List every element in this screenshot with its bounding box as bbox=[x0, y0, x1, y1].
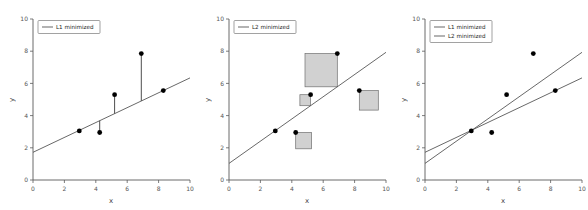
y-tick-label-8: 8 bbox=[24, 47, 28, 54]
panel-l1-and-l2: 0 2 4 6 8 10 0 2 4 6 8 10 x y bbox=[392, 0, 588, 210]
x-tick-label-2: 2 bbox=[62, 185, 66, 192]
data-point bbox=[504, 92, 509, 97]
x-axis-label: x bbox=[109, 197, 113, 205]
data-point bbox=[139, 51, 144, 56]
legend-label-l1: L1 minimized bbox=[56, 24, 94, 30]
data-point bbox=[77, 129, 82, 134]
y-tick-label-8: 8 bbox=[220, 47, 224, 54]
y-tick-label-4: 4 bbox=[24, 112, 28, 119]
x-tick-label-2: 2 bbox=[258, 185, 262, 192]
x-tick-label-4: 4 bbox=[486, 185, 490, 192]
y-tick-label-10: 10 bbox=[216, 15, 224, 22]
y-tick-label-2: 2 bbox=[220, 144, 224, 151]
data-points bbox=[469, 51, 558, 135]
legend[interactable]: L2 minimized bbox=[234, 21, 296, 34]
x-tick-label-8: 8 bbox=[157, 185, 161, 192]
x-tick-label-4: 4 bbox=[94, 185, 98, 192]
l2-fit-line bbox=[425, 52, 582, 163]
figure-three-panel-regression: 0 2 4 6 8 10 0 2 4 6 8 10 x y bbox=[0, 0, 588, 210]
x-tick-label-6: 6 bbox=[125, 185, 129, 192]
data-point bbox=[112, 92, 117, 97]
y-tick-label-8: 8 bbox=[416, 47, 420, 54]
data-point bbox=[531, 51, 536, 56]
x-tick-label-10: 10 bbox=[382, 185, 390, 192]
data-point bbox=[553, 88, 558, 93]
x-tick-label-8: 8 bbox=[549, 185, 553, 192]
y-tick-label-0: 0 bbox=[24, 176, 28, 183]
data-point bbox=[489, 130, 494, 135]
legend-label-l1: L1 minimized bbox=[448, 24, 486, 30]
x-axis-label: x bbox=[501, 197, 505, 205]
data-point bbox=[293, 130, 298, 135]
panel-l1-canvas: 0 2 4 6 8 10 0 2 4 6 8 10 x y bbox=[0, 0, 196, 210]
y-tick-label-4: 4 bbox=[416, 112, 420, 119]
panel-both-canvas: 0 2 4 6 8 10 0 2 4 6 8 10 x y bbox=[392, 0, 588, 210]
panel-l2-minimized: 0 2 4 6 8 10 0 2 4 6 8 10 x y bbox=[196, 0, 392, 210]
residual-squares bbox=[296, 54, 379, 149]
residual-segments bbox=[79, 54, 163, 133]
y-tick-label-2: 2 bbox=[24, 144, 28, 151]
x-tick-label-4: 4 bbox=[290, 185, 294, 192]
data-point bbox=[273, 129, 278, 134]
x-tick-label-0: 0 bbox=[423, 185, 427, 192]
data-point bbox=[97, 130, 102, 135]
legend-label-l2: L2 minimized bbox=[448, 33, 486, 39]
y-tick-label-4: 4 bbox=[220, 112, 224, 119]
x-tick-label-10: 10 bbox=[186, 185, 194, 192]
panel-l1-minimized: 0 2 4 6 8 10 0 2 4 6 8 10 x y bbox=[0, 0, 196, 210]
panel-l1-axes: 0 2 4 6 8 10 0 2 4 6 8 10 x y bbox=[8, 15, 194, 205]
y-tick-label-10: 10 bbox=[20, 15, 28, 22]
y-tick-label-0: 0 bbox=[416, 176, 420, 183]
y-axis-label: y bbox=[204, 98, 212, 102]
l1-fit-line bbox=[33, 78, 190, 152]
legend[interactable]: L1 minimized bbox=[38, 21, 100, 34]
y-tick-label-6: 6 bbox=[24, 80, 28, 87]
y-axis-label: y bbox=[8, 98, 16, 102]
data-point bbox=[335, 51, 340, 56]
data-point bbox=[308, 92, 313, 97]
legend[interactable]: L1 minimized L2 minimized bbox=[430, 21, 492, 43]
data-point bbox=[469, 129, 474, 134]
y-tick-label-2: 2 bbox=[416, 144, 420, 151]
x-tick-label-10: 10 bbox=[578, 185, 586, 192]
x-tick-label-8: 8 bbox=[353, 185, 357, 192]
y-tick-label-6: 6 bbox=[416, 80, 420, 87]
x-axis-label: x bbox=[305, 197, 309, 205]
legend-label-l2: L2 minimized bbox=[252, 24, 290, 30]
panel-both-axes: 0 2 4 6 8 10 0 2 4 6 8 10 x y bbox=[400, 15, 586, 205]
x-tick-label-6: 6 bbox=[321, 185, 325, 192]
y-axis-ticks bbox=[422, 19, 425, 180]
y-tick-label-10: 10 bbox=[412, 15, 420, 22]
x-tick-label-6: 6 bbox=[517, 185, 521, 192]
x-tick-label-0: 0 bbox=[31, 185, 35, 192]
y-tick-label-0: 0 bbox=[220, 176, 224, 183]
data-points bbox=[77, 51, 166, 135]
y-axis-label: y bbox=[400, 98, 408, 102]
panel-l2-canvas: 0 2 4 6 8 10 0 2 4 6 8 10 x y bbox=[196, 0, 392, 210]
data-point bbox=[357, 88, 362, 93]
x-tick-label-2: 2 bbox=[454, 185, 458, 192]
l1-fit-line bbox=[425, 78, 582, 152]
x-tick-label-0: 0 bbox=[227, 185, 231, 192]
data-point bbox=[161, 88, 166, 93]
y-tick-label-6: 6 bbox=[220, 80, 224, 87]
